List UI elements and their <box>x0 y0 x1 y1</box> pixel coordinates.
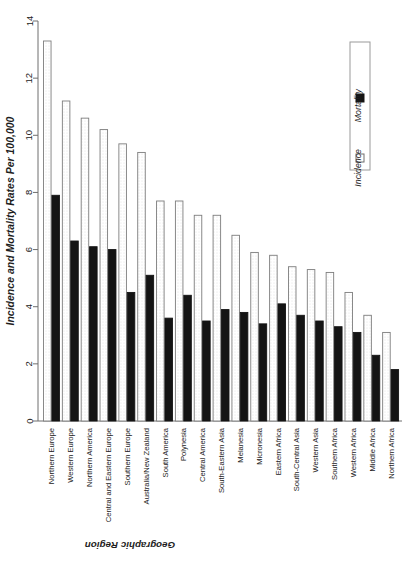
category-label: Western Europe <box>66 428 75 483</box>
bar-incidence <box>345 292 353 421</box>
value-axis-tick-label: 12 <box>24 73 35 84</box>
bar-incidence <box>326 272 334 421</box>
bar-incidence <box>44 41 52 421</box>
category-label: Australia/New Zealand <box>142 428 151 504</box>
bar-incidence <box>62 101 70 421</box>
category-label: Northern America <box>85 427 94 487</box>
value-axis-tick-label: 4 <box>24 304 35 309</box>
category-label: Southern Africa <box>330 427 339 480</box>
bar-mortality <box>184 295 192 421</box>
bar-mortality <box>146 275 154 421</box>
bar-incidence <box>364 315 372 421</box>
x-axis-title: Geographic Region <box>85 540 175 551</box>
bar-incidence <box>119 144 127 421</box>
bar-mortality <box>372 355 380 421</box>
bar-incidence <box>194 215 202 421</box>
category-label: Central and Eastern Europe <box>104 428 113 522</box>
bar-incidence <box>270 255 278 421</box>
bar-mortality <box>240 312 248 421</box>
category-label: Polynesia <box>179 427 188 461</box>
bar-mortality <box>353 332 361 421</box>
category-label: Southern Europe <box>123 428 132 485</box>
bar-mortality <box>297 315 305 421</box>
bar-mortality <box>391 370 399 421</box>
category-label: South America <box>161 427 170 477</box>
category-label: Central America <box>198 427 207 482</box>
category-label: Middle Africa <box>368 427 377 471</box>
bar-incidence <box>175 201 183 421</box>
bar-mortality <box>108 250 116 421</box>
category-label: Northern Europe <box>47 428 56 484</box>
bar-mortality <box>203 321 211 421</box>
category-label: Western Africa <box>349 427 358 477</box>
bar-mortality <box>71 241 79 421</box>
legend-label: Mortality <box>353 88 363 122</box>
bar-incidence <box>307 270 315 421</box>
category-label: Western Asia <box>311 427 320 472</box>
category-label: Melanesia <box>236 427 245 462</box>
category-label: Micronesia <box>255 427 264 464</box>
value-axis-tick-label: 6 <box>24 247 35 252</box>
bar-incidence <box>138 152 146 421</box>
category-label: Eastern Africa <box>274 427 283 475</box>
bar-mortality <box>335 327 343 421</box>
category-label: South-Eastern Asia <box>217 427 226 493</box>
category-label: Northern Africa <box>387 427 396 478</box>
bar-mortality <box>278 304 286 421</box>
bar-mortality <box>127 292 135 421</box>
value-axis-tick-label: 0 <box>24 418 35 423</box>
value-axis-tick-label: 2 <box>24 361 35 366</box>
bar-incidence <box>383 332 391 421</box>
bar-mortality <box>259 324 267 421</box>
bar-incidence <box>288 267 296 421</box>
bar-incidence <box>81 118 89 421</box>
chart-canvas: 02468101214Northern EuropeWestern Europe… <box>0 0 409 561</box>
bar-mortality <box>90 247 98 421</box>
y-axis-title: Incidence and Mortality Rates Per 100,00… <box>4 116 16 325</box>
bar-incidence <box>213 215 221 421</box>
bar-incidence <box>251 252 259 421</box>
bar-incidence <box>232 235 240 421</box>
value-axis-tick-label: 10 <box>24 130 35 141</box>
legend-label: Incidence <box>353 149 363 187</box>
bar-incidence <box>157 201 165 421</box>
bar-incidence <box>100 130 108 421</box>
bar-mortality <box>165 318 173 421</box>
bar-mortality <box>221 310 229 421</box>
category-label: South-Central Asia <box>292 427 301 491</box>
value-axis-tick-label: 8 <box>24 190 35 195</box>
bar-mortality <box>316 321 324 421</box>
bar-mortality <box>52 195 60 421</box>
value-axis-tick-label: 14 <box>24 16 35 27</box>
